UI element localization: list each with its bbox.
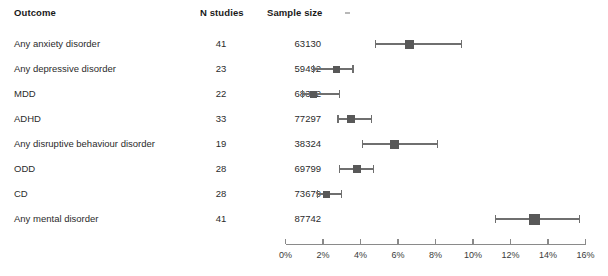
axis-tick — [397, 239, 398, 244]
column-header-sample-size: Sample size — [267, 7, 323, 18]
n-studies-value: 19 — [208, 138, 234, 150]
axis-tick — [510, 239, 511, 244]
sample-size-value: 59492 — [277, 63, 321, 75]
table-row: ADHD3377297 — [0, 113, 608, 138]
axis-tick-label: 0% — [266, 250, 306, 260]
header-tick-mark — [345, 12, 350, 14]
outcome-label: Any mental disorder — [14, 213, 98, 225]
x-axis-line — [286, 244, 586, 245]
n-studies-value: 33 — [208, 113, 234, 125]
sample-size-value: 63130 — [277, 38, 321, 50]
n-studies-value: 22 — [208, 88, 234, 100]
outcome-label: Any anxiety disorder — [14, 38, 100, 50]
axis-tick-label: 16% — [566, 250, 606, 260]
table-row: ODD2869799 — [0, 163, 608, 188]
outcome-label: Any depressive disorder — [14, 63, 116, 75]
axis-tick — [472, 239, 473, 244]
axis-tick — [360, 239, 361, 244]
axis-tick — [285, 239, 286, 244]
sample-size-value: 87742 — [277, 213, 321, 225]
n-studies-value: 41 — [208, 213, 234, 225]
outcome-label: MDD — [14, 88, 36, 100]
sample-size-value: 68382 — [277, 88, 321, 100]
outcome-label: ADHD — [14, 113, 41, 125]
sample-size-value: 77297 — [277, 113, 321, 125]
table-row: CD2873679 — [0, 188, 608, 213]
axis-tick-label: 12% — [491, 250, 531, 260]
column-header-outcome: Outcome — [14, 7, 56, 18]
axis-tick-label: 6% — [378, 250, 418, 260]
sample-size-value: 73679 — [277, 188, 321, 200]
table-row: Any anxiety disorder4163130 — [0, 38, 608, 63]
outcome-label: CD — [14, 188, 28, 200]
n-studies-value: 28 — [208, 188, 234, 200]
table-row: Any depressive disorder2359492 — [0, 63, 608, 88]
outcome-label: ODD — [14, 163, 35, 175]
sample-size-value: 69799 — [277, 163, 321, 175]
axis-tick-label: 4% — [341, 250, 381, 260]
n-studies-value: 28 — [208, 163, 234, 175]
table-row: MDD2268382 — [0, 88, 608, 113]
n-studies-value: 23 — [208, 63, 234, 75]
axis-tick — [435, 239, 436, 244]
axis-tick-label: 8% — [416, 250, 456, 260]
forest-plot-figure: Outcome N studies Sample size Any anxiet… — [0, 0, 608, 276]
axis-tick — [585, 239, 586, 244]
table-row: Any disruptive behaviour disorder1938324 — [0, 138, 608, 163]
axis-tick-label: 10% — [453, 250, 493, 260]
sample-size-value: 38324 — [277, 138, 321, 150]
axis-tick-label: 14% — [528, 250, 568, 260]
figure-caption-clipped — [14, 268, 574, 276]
axis-tick — [322, 239, 323, 244]
axis-tick — [547, 239, 548, 244]
axis-tick-label: 2% — [303, 250, 343, 260]
outcome-label: Any disruptive behaviour disorder — [14, 138, 155, 150]
table-row: Any mental disorder4187742 — [0, 213, 608, 238]
column-header-n-studies: N studies — [200, 7, 244, 18]
n-studies-value: 41 — [208, 38, 234, 50]
